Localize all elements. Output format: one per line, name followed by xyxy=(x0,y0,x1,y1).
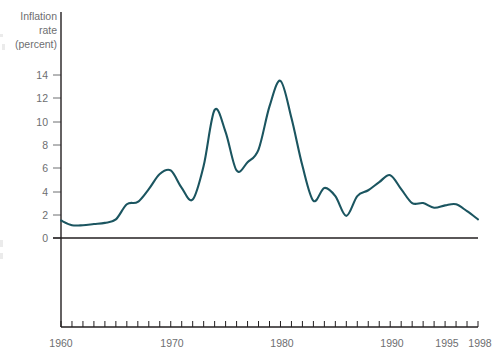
y-tick-label-0: 0 xyxy=(42,232,48,244)
y-tick-label-10: 10 xyxy=(36,116,48,128)
chart-canvas: Inflation rate (percent) 14 12 10 8 6 4 … xyxy=(0,0,504,357)
y-axis-title-line-1: Inflation xyxy=(20,10,57,22)
inflation-rate-chart: Inflation rate (percent) 14 12 10 8 6 4 … xyxy=(0,0,504,357)
x-tick-label-1960: 1960 xyxy=(49,337,73,349)
chart-background xyxy=(0,0,504,357)
y-tick-label-14: 14 xyxy=(36,69,48,81)
y-tick-label-6: 6 xyxy=(42,162,48,174)
y-axis-title-line-2: rate xyxy=(39,24,57,36)
y-tick-label-2: 2 xyxy=(42,209,48,221)
y-tick-label-4: 4 xyxy=(42,186,48,198)
x-tick-label-1990: 1990 xyxy=(380,337,404,349)
x-tick-label-1980: 1980 xyxy=(270,337,294,349)
y-tick-label-8: 8 xyxy=(42,139,48,151)
y-axis-title-line-3: (percent) xyxy=(15,38,57,50)
y-tick-label-12: 12 xyxy=(36,92,48,104)
x-tick-label-1998: 1998 xyxy=(468,337,492,349)
x-tick-label-1995: 1995 xyxy=(435,337,459,349)
x-tick-label-1970: 1970 xyxy=(160,337,184,349)
